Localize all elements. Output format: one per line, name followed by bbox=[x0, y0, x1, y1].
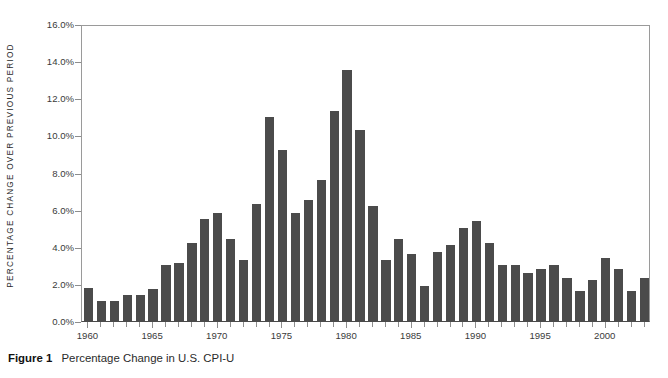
x-axis-tick-mark bbox=[243, 322, 244, 327]
bar bbox=[407, 254, 416, 321]
x-axis-tick-mark bbox=[294, 322, 295, 327]
bar bbox=[317, 180, 326, 321]
x-axis-tick-label: 1965 bbox=[141, 330, 162, 341]
bar bbox=[627, 291, 636, 321]
x-axis-tick-mark bbox=[488, 322, 489, 327]
x-axis-tick-label: 1975 bbox=[271, 330, 292, 341]
x-axis-tick-mark bbox=[178, 322, 179, 327]
bar bbox=[330, 111, 339, 321]
x-axis-tick-mark bbox=[126, 322, 127, 327]
figure-container: PERCENTAGE CHANGE OVER PREVIOUS PERIOD 0… bbox=[0, 0, 668, 378]
bar bbox=[342, 70, 351, 321]
bar bbox=[278, 150, 287, 321]
bar bbox=[562, 278, 571, 321]
bar bbox=[226, 239, 235, 321]
x-axis-tick-mark bbox=[100, 322, 101, 327]
y-axis-tick-label: 8.0% bbox=[52, 168, 74, 180]
bar bbox=[110, 301, 119, 321]
bar bbox=[601, 258, 610, 321]
bar bbox=[84, 288, 93, 321]
x-axis-tick-mark bbox=[501, 322, 502, 327]
bar bbox=[136, 295, 145, 321]
y-axis-tick-mark bbox=[75, 322, 81, 323]
x-axis-tick-label: 1960 bbox=[77, 330, 98, 341]
x-axis-tick-mark bbox=[230, 322, 231, 327]
caption-lead: Figure bbox=[8, 352, 43, 364]
x-axis-tick-mark bbox=[424, 322, 425, 327]
bar bbox=[97, 301, 106, 321]
x-axis-tick-mark bbox=[411, 322, 412, 328]
bar bbox=[575, 291, 584, 321]
x-axis-tick-mark bbox=[462, 322, 463, 327]
y-axis-title: PERCENTAGE CHANGE OVER PREVIOUS PERIOD bbox=[0, 0, 20, 330]
x-axis-tick-mark bbox=[333, 322, 334, 327]
caption-text: Percentage Change in U.S. CPI-U bbox=[62, 352, 235, 364]
y-axis-tick-label: 0.0% bbox=[52, 316, 74, 328]
x-axis-tick-label: 1980 bbox=[335, 330, 356, 341]
plot-area bbox=[81, 25, 650, 322]
bar bbox=[368, 206, 377, 321]
bar bbox=[588, 280, 597, 321]
bar bbox=[549, 265, 558, 321]
bar bbox=[161, 265, 170, 321]
x-axis-tick-mark bbox=[359, 322, 360, 327]
x-axis-tick-mark bbox=[618, 322, 619, 327]
x-axis-tick-mark bbox=[631, 322, 632, 327]
x-axis-tick-mark bbox=[514, 322, 515, 327]
x-axis-tick-mark bbox=[191, 322, 192, 327]
y-axis-tick-label: 6.0% bbox=[52, 205, 74, 217]
x-axis-tick-mark bbox=[87, 322, 88, 328]
y-axis-tick-label: 14.0% bbox=[47, 56, 74, 68]
x-axis-tick-mark bbox=[475, 322, 476, 328]
x-axis-tick-label: 1995 bbox=[529, 330, 550, 341]
x-axis-tick-mark bbox=[269, 322, 270, 327]
bar bbox=[394, 239, 403, 321]
bar bbox=[485, 243, 494, 321]
x-axis-tick-label: 1985 bbox=[400, 330, 421, 341]
bar bbox=[187, 243, 196, 321]
bar bbox=[523, 273, 532, 321]
y-axis-tick-label: 2.0% bbox=[52, 279, 74, 291]
bar bbox=[200, 219, 209, 321]
x-axis-tick-mark bbox=[579, 322, 580, 327]
bar bbox=[420, 286, 429, 321]
x-axis-tick-mark bbox=[307, 322, 308, 327]
bar bbox=[239, 260, 248, 321]
x-axis-tick-mark bbox=[540, 322, 541, 328]
x-axis-tick-mark bbox=[113, 322, 114, 327]
x-axis-tick-mark bbox=[592, 322, 593, 327]
x-axis-tick-mark bbox=[165, 322, 166, 327]
bar bbox=[304, 200, 313, 321]
bar bbox=[123, 295, 132, 321]
y-axis-tick-label: 12.0% bbox=[47, 93, 74, 105]
caption-number: 1 bbox=[46, 352, 52, 364]
x-axis-tick-mark bbox=[437, 322, 438, 327]
x-axis-tick-mark bbox=[152, 322, 153, 328]
y-axis-tick-label: 10.0% bbox=[47, 130, 74, 142]
bar bbox=[265, 117, 274, 321]
x-axis-tick-mark bbox=[320, 322, 321, 327]
x-axis-tick-mark bbox=[139, 322, 140, 327]
y-axis-tick-label: 4.0% bbox=[52, 242, 74, 254]
x-axis-tick-mark bbox=[566, 322, 567, 327]
x-axis-tick-mark bbox=[450, 322, 451, 327]
bar bbox=[174, 263, 183, 321]
bar bbox=[148, 289, 157, 321]
bar bbox=[640, 278, 649, 321]
x-axis-tick-mark bbox=[644, 322, 645, 327]
bar bbox=[213, 213, 222, 321]
bar bbox=[536, 269, 545, 321]
figure-caption: Figure 1 Percentage Change in U.S. CPI-U bbox=[8, 352, 234, 364]
bar bbox=[498, 265, 507, 321]
bar bbox=[381, 260, 390, 321]
y-axis-tick-label: 16.0% bbox=[47, 19, 74, 31]
bar bbox=[252, 204, 261, 321]
x-axis-tick-label: 1970 bbox=[206, 330, 227, 341]
bar bbox=[446, 245, 455, 321]
x-axis-tick-mark bbox=[605, 322, 606, 328]
bar bbox=[433, 252, 442, 321]
bar bbox=[355, 130, 364, 321]
chart-figure: PERCENTAGE CHANGE OVER PREVIOUS PERIOD 0… bbox=[0, 0, 668, 345]
bar bbox=[511, 265, 520, 321]
x-axis-tick-mark bbox=[256, 322, 257, 327]
